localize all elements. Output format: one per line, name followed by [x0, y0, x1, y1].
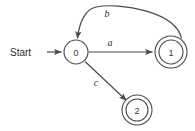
transition-label-b: b	[105, 8, 110, 19]
diagram-canvas: 0 1 2 Start a b c	[0, 0, 195, 131]
automaton-diagram: 0 1 2 Start a b c	[0, 0, 195, 131]
start-label: Start	[10, 47, 31, 58]
transition-label-a: a	[108, 37, 113, 48]
state-label-1: 1	[168, 48, 173, 58]
transition-b-arc	[78, 6, 182, 39]
state-label-0: 0	[73, 48, 78, 58]
transition-label-c: c	[94, 77, 99, 88]
transition-c-line	[85, 62, 127, 101]
state-label-2: 2	[134, 106, 139, 116]
